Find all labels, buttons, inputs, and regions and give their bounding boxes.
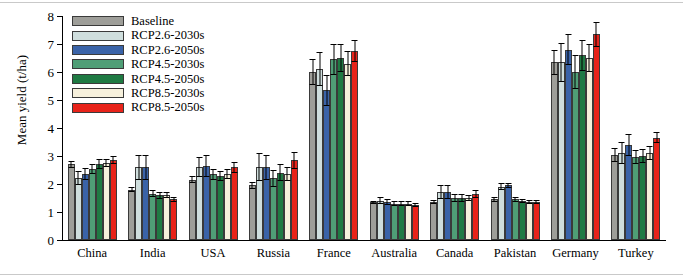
- bar[interactable]: [519, 201, 526, 240]
- bar[interactable]: [505, 185, 512, 240]
- bar[interactable]: [68, 164, 75, 240]
- bar[interactable]: [491, 199, 498, 240]
- bar-slot: [284, 16, 291, 240]
- legend-item[interactable]: RCP4.5-2050s: [72, 72, 204, 86]
- bar[interactable]: [398, 204, 405, 240]
- bar[interactable]: [96, 164, 103, 240]
- bar[interactable]: [465, 198, 472, 240]
- bar[interactable]: [189, 180, 196, 240]
- legend-swatch: [72, 74, 124, 84]
- error-bar: [259, 153, 260, 181]
- bar[interactable]: [391, 204, 398, 240]
- bar[interactable]: [533, 202, 540, 240]
- legend-item[interactable]: RCP2.6-2050s: [72, 43, 204, 57]
- error-bar: [529, 200, 530, 204]
- bar[interactable]: [551, 62, 558, 240]
- bar[interactable]: [458, 198, 465, 240]
- bar[interactable]: [217, 176, 224, 240]
- error-bar: [501, 183, 502, 190]
- bar[interactable]: [170, 199, 177, 240]
- bar[interactable]: [451, 198, 458, 240]
- legend-item[interactable]: RCP8.5-2050s: [72, 100, 204, 114]
- legend-item[interactable]: RCP4.5-2030s: [72, 57, 204, 71]
- bar[interactable]: [196, 167, 203, 240]
- error-bar: [220, 171, 221, 181]
- legend-swatch: [72, 88, 124, 98]
- error-bar: [447, 185, 448, 199]
- bar[interactable]: [412, 205, 419, 240]
- bar[interactable]: [444, 192, 451, 240]
- bar[interactable]: [625, 145, 632, 240]
- bar[interactable]: [586, 58, 593, 240]
- bar[interactable]: [284, 174, 291, 240]
- bar[interactable]: [632, 157, 639, 240]
- bar[interactable]: [572, 72, 579, 240]
- bar[interactable]: [128, 190, 135, 240]
- bar[interactable]: [593, 34, 600, 240]
- bar-group-bars: [485, 16, 545, 240]
- bar[interactable]: [512, 199, 519, 240]
- legend-item[interactable]: Baseline: [72, 14, 204, 28]
- bar[interactable]: [323, 90, 330, 240]
- bar[interactable]: [224, 174, 231, 240]
- bar[interactable]: [498, 187, 505, 240]
- error-bar: [536, 200, 537, 204]
- x-tick-label: Turkey: [606, 246, 666, 261]
- error-bar: [415, 203, 416, 207]
- bar-slot: [519, 16, 526, 240]
- bar[interactable]: [330, 59, 337, 240]
- bar[interactable]: [579, 55, 586, 240]
- bar-slot: [370, 16, 377, 240]
- bar[interactable]: [270, 178, 277, 240]
- bar-slot: [653, 16, 660, 240]
- bar[interactable]: [472, 194, 479, 240]
- bar-slot: [330, 16, 337, 240]
- bar[interactable]: [351, 51, 358, 240]
- bar[interactable]: [558, 62, 565, 240]
- bar[interactable]: [646, 153, 653, 240]
- bar-slot: [263, 16, 270, 240]
- bar-slot: [505, 16, 512, 240]
- error-bar: [642, 149, 643, 163]
- bar[interactable]: [344, 64, 351, 240]
- bar[interactable]: [377, 201, 384, 240]
- bar[interactable]: [611, 155, 618, 240]
- bar[interactable]: [156, 195, 163, 240]
- bar[interactable]: [82, 174, 89, 240]
- bar[interactable]: [526, 202, 533, 240]
- bar[interactable]: [231, 167, 238, 240]
- bar[interactable]: [639, 156, 646, 240]
- bar[interactable]: [309, 72, 316, 240]
- bar[interactable]: [163, 195, 170, 240]
- bar[interactable]: [316, 69, 323, 240]
- chart-figure: Mean yield (t/ha) 012345678 ChinaIndiaUS…: [0, 0, 683, 276]
- bar[interactable]: [291, 160, 298, 240]
- error-bar: [461, 194, 462, 202]
- bar-slot: [249, 16, 256, 240]
- bar[interactable]: [75, 178, 82, 240]
- bar-slot: [465, 16, 472, 240]
- bar[interactable]: [618, 153, 625, 240]
- bar[interactable]: [653, 138, 660, 240]
- bar[interactable]: [110, 160, 117, 240]
- legend-item[interactable]: RCP2.6-2030s: [72, 28, 204, 42]
- bar[interactable]: [249, 185, 256, 240]
- bar[interactable]: [430, 202, 437, 240]
- bar-slot: [526, 16, 533, 240]
- bar[interactable]: [370, 202, 377, 240]
- bar[interactable]: [337, 58, 344, 240]
- bar[interactable]: [89, 169, 96, 240]
- bar[interactable]: [384, 202, 391, 240]
- legend-item[interactable]: RCP8.5-2030s: [72, 86, 204, 100]
- bar[interactable]: [437, 192, 444, 240]
- bar[interactable]: [103, 163, 110, 240]
- error-bar: [401, 201, 402, 205]
- bar[interactable]: [565, 50, 572, 240]
- error-bar: [71, 161, 72, 168]
- legend-label: RCP8.5-2050s: [131, 101, 204, 114]
- bar[interactable]: [405, 204, 412, 240]
- bar[interactable]: [149, 194, 156, 240]
- bar[interactable]: [277, 173, 284, 240]
- bar[interactable]: [210, 174, 217, 240]
- x-tick-label: Russia: [243, 246, 303, 261]
